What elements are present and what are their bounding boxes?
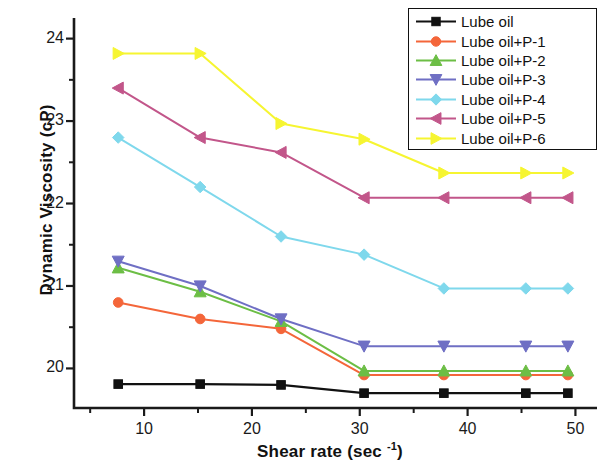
data-point-marker-triangle-left xyxy=(520,192,531,204)
data-point-marker-square xyxy=(564,389,573,398)
data-point-marker-square xyxy=(440,389,449,398)
square-marker xyxy=(522,389,531,398)
square-marker xyxy=(360,389,369,398)
data-point-marker-triangle-right xyxy=(431,132,442,144)
legend-item-label: Lube oil+P-4 xyxy=(461,91,546,108)
x-axis-tick-label: 30 xyxy=(340,420,380,438)
legend-sample-swatch xyxy=(414,70,458,89)
series-lube-oil-p-4 xyxy=(112,132,573,294)
data-point-marker-triangle-right xyxy=(359,133,370,145)
legend-sample-swatch xyxy=(414,51,458,70)
data-point-marker-triangle-left xyxy=(275,146,286,158)
triangle-right-marker xyxy=(521,167,532,179)
x-axis-tick-label: 50 xyxy=(555,420,595,438)
data-point-marker-circle xyxy=(113,298,123,308)
data-point-marker-diamond xyxy=(358,249,370,261)
series-lube-oil-p-2 xyxy=(112,262,574,376)
diamond-marker xyxy=(562,283,574,295)
diamond-marker xyxy=(430,94,441,105)
x-axis-tick-label: 10 xyxy=(124,420,164,438)
legend-item-label: Lube oil+P-3 xyxy=(461,71,546,88)
legend-item-label: Lube oil+P-1 xyxy=(461,33,546,50)
square-marker xyxy=(432,17,440,25)
y-axis-tick-label: 24 xyxy=(34,29,64,47)
x-axis-title: Shear rate (sec -1) xyxy=(160,440,500,462)
data-point-marker-diamond xyxy=(438,283,450,295)
data-point-marker-triangle-right xyxy=(113,47,124,59)
legend-sample-swatch xyxy=(414,109,458,128)
data-point-marker-diamond xyxy=(430,94,441,105)
circle-marker xyxy=(431,36,440,45)
triangle-right-marker xyxy=(359,133,370,145)
series-lube-oil-p-3 xyxy=(112,256,574,352)
triangle-left-marker xyxy=(430,113,441,125)
x-axis-title-main: Shear rate (sec xyxy=(257,442,387,461)
series-line xyxy=(118,138,568,289)
data-point-marker-square xyxy=(522,389,531,398)
legend-sample-swatch xyxy=(414,12,458,31)
diamond-marker xyxy=(194,181,206,193)
data-point-marker-triangle-left xyxy=(562,192,573,204)
legend-item-label: Lube oil+P-2 xyxy=(461,52,546,69)
triangle-left-marker xyxy=(194,132,205,144)
square-marker xyxy=(564,389,573,398)
data-point-marker-diamond xyxy=(562,283,574,295)
legend-item-lube-oil-p-1[interactable]: Lube oil+P-1 xyxy=(414,31,592,50)
series-lube-oil xyxy=(114,380,572,398)
triangle-left-marker xyxy=(562,192,573,204)
diamond-marker xyxy=(358,249,370,261)
data-point-marker-diamond xyxy=(112,132,124,144)
square-marker xyxy=(114,380,123,389)
data-point-marker-triangle-left xyxy=(430,113,441,125)
data-point-marker-triangle-left xyxy=(438,192,449,204)
legend-item-lube-oil-p-3[interactable]: Lube oil+P-3 xyxy=(414,70,592,89)
series-line xyxy=(118,261,568,346)
legend-item-label: Lube oil+P-6 xyxy=(461,130,546,147)
data-point-marker-square xyxy=(114,380,123,389)
data-point-marker-circle xyxy=(431,36,440,45)
y-axis-tick-label: 20 xyxy=(34,358,64,376)
legend-item-lube-oil-p-6[interactable]: Lube oil+P-6 xyxy=(414,128,592,147)
y-axis-tick-label: 22 xyxy=(34,194,64,212)
data-point-marker-triangle-left xyxy=(194,132,205,144)
square-marker xyxy=(440,389,449,398)
legend-item-lube-oil-p-2[interactable]: Lube oil+P-2 xyxy=(414,51,592,70)
diamond-marker xyxy=(520,283,532,295)
data-point-marker-square xyxy=(360,389,369,398)
legend-item-label: Lube oil xyxy=(461,13,514,30)
x-axis-tick-label: 20 xyxy=(232,420,272,438)
triangle-left-marker xyxy=(438,192,449,204)
legend-item-lube-oil[interactable]: Lube oil xyxy=(414,12,592,31)
data-point-marker-diamond xyxy=(194,181,206,193)
data-point-marker-triangle-right xyxy=(276,118,287,130)
data-point-marker-triangle-right xyxy=(563,167,574,179)
legend-item-lube-oil-p-4[interactable]: Lube oil+P-4 xyxy=(414,90,592,109)
legend-sample-swatch xyxy=(414,129,458,148)
y-axis-tick-label: 21 xyxy=(34,276,64,294)
series-line xyxy=(118,268,568,371)
x-axis-tick-label: 40 xyxy=(448,420,488,438)
square-marker xyxy=(277,381,286,390)
circle-marker xyxy=(113,298,123,308)
square-marker xyxy=(196,380,205,389)
diamond-marker xyxy=(275,231,287,243)
circle-marker xyxy=(195,314,205,324)
legend-sample-swatch xyxy=(414,90,458,109)
triangle-right-marker xyxy=(563,167,574,179)
series-line xyxy=(118,384,568,393)
triangle-right-marker xyxy=(431,132,442,144)
chart-legend: Lube oilLube oil+P-1Lube oil+P-2Lube oil… xyxy=(408,8,597,150)
legend-item-label: Lube oil+P-5 xyxy=(461,110,546,127)
data-point-marker-circle xyxy=(195,314,205,324)
data-point-marker-diamond xyxy=(520,283,532,295)
data-point-marker-square xyxy=(196,380,205,389)
data-point-marker-triangle-right xyxy=(521,167,532,179)
triangle-left-marker xyxy=(275,146,286,158)
chart-figure: Dynamic Viscosity (cP) Shear rate (sec -… xyxy=(0,0,606,470)
triangle-right-marker xyxy=(276,118,287,130)
triangle-left-marker xyxy=(112,82,123,94)
data-point-marker-triangle-left xyxy=(112,82,123,94)
x-axis-title-exponent: -1 xyxy=(387,440,397,452)
triangle-right-marker xyxy=(439,167,450,179)
legend-item-lube-oil-p-5[interactable]: Lube oil+P-5 xyxy=(414,109,592,128)
